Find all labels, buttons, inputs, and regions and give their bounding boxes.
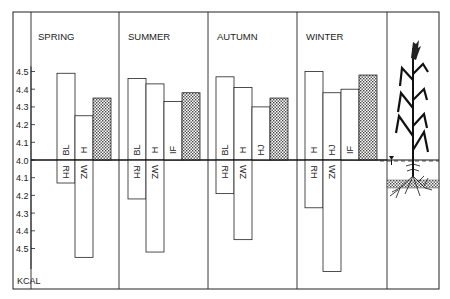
bar-label: WZ [327,165,337,179]
panel-autumn: AUTUMNBLHHJRHWZ [216,31,288,240]
y-tick-label: 4.1 [16,138,29,148]
season-panels: SPRINGBLHRHWZSUMMERBLHIFRHWZAUTUMNBLHHJR… [31,31,387,272]
bar-label: HJ [256,145,266,156]
bar-label: RH [132,166,142,179]
bar-up [359,75,377,160]
y-tick-label: 4.3 [16,102,29,112]
bar-label: RH [61,166,71,179]
y-tick-label: 4.3 [16,209,29,219]
y-axis: 4.54.44.34.24.14.04.14.24.34.44.5 [16,67,35,270]
season-title: SPRING [38,31,74,42]
bar-label: WZ [150,165,160,179]
bar-label: WZ [79,165,89,179]
bar-label: HJ [327,145,337,156]
bar-up [270,98,288,160]
bar-up [305,72,323,161]
y-tick-label: 4.0 [16,156,29,166]
panel-summer: SUMMERBLHIFRHWZ [128,31,200,252]
bar-label: IF [168,145,178,154]
panel-winter: WINTERHHJIFRHWZ [305,31,377,272]
season-title: AUTUMN [217,31,258,42]
y-tick-label: 4.5 [16,244,29,254]
y-tick-label: 4.1 [16,173,29,183]
bar-up [182,93,200,160]
bar-label: WZ [238,165,248,179]
bar-label: IF [345,145,355,154]
y-tick-label: 4.5 [16,67,29,77]
season-title: WINTER [306,31,344,42]
y-tick-label: 4.2 [16,120,29,130]
y-axis-unit-label: KCAL [17,276,41,286]
bar-label: BL [61,144,71,155]
y-tick-label: 4.4 [16,226,29,236]
season-title: SUMMER [128,31,170,42]
bar-label: BL [220,144,230,155]
y-tick-label: 4.4 [16,85,29,95]
plant-tassel-icon [411,40,421,60]
soil-layer [387,180,439,188]
bar-label: BL [132,144,142,155]
bar-label: H [150,147,160,154]
bar-up [93,98,111,160]
bar-label: H [238,147,248,154]
bar-label: H [79,147,89,154]
plant-illustration [380,40,439,198]
bar-label: RH [309,166,319,179]
y-tick-label: 4.2 [16,191,29,201]
panel-spring: SPRINGBLHRHWZ [38,31,111,257]
energy-chart: 4.54.44.34.24.14.04.14.24.34.44.5 SPRING… [0,0,450,299]
bar-label: RH [220,166,230,179]
bar-label: H [309,147,319,154]
